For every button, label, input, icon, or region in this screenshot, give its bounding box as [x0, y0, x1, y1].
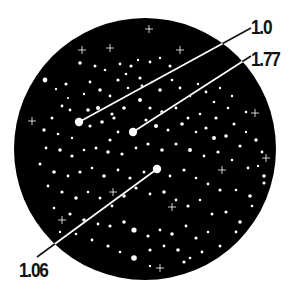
- star: [169, 65, 172, 68]
- star: [195, 131, 198, 134]
- star: [180, 122, 184, 126]
- star: [175, 143, 178, 146]
- star: [238, 144, 241, 147]
- star: [216, 150, 219, 153]
- star: [69, 109, 72, 112]
- star: [149, 193, 152, 196]
- star: [88, 124, 91, 127]
- star: [43, 78, 48, 83]
- star: [188, 148, 192, 152]
- star: [158, 88, 162, 92]
- star: [125, 73, 128, 76]
- star: [231, 159, 234, 162]
- star: [116, 78, 119, 81]
- star: [52, 170, 56, 174]
- star: [64, 82, 67, 85]
- star: [245, 111, 248, 114]
- star: [68, 212, 71, 215]
- star: [45, 147, 48, 150]
- star: [106, 244, 109, 247]
- star: [55, 88, 57, 90]
- star: [235, 231, 238, 234]
- star: [185, 225, 188, 228]
- star: [47, 185, 50, 188]
- star: [262, 174, 266, 178]
- star: [247, 167, 250, 170]
- star: [138, 76, 141, 79]
- star: [195, 177, 198, 180]
- star: [83, 149, 86, 152]
- star: [167, 129, 170, 132]
- star: [120, 152, 123, 155]
- star: [203, 155, 206, 158]
- star-field-diagram: [0, 0, 301, 294]
- star: [134, 186, 137, 189]
- star: [109, 95, 112, 98]
- star: [169, 175, 172, 178]
- star: [53, 207, 56, 210]
- star: [57, 133, 60, 136]
- star: [154, 124, 158, 128]
- star: [61, 105, 64, 108]
- star: [186, 204, 189, 207]
- star: [74, 196, 78, 200]
- star: [131, 227, 136, 232]
- callout-label-2: 1.77: [251, 48, 280, 69]
- star: [189, 257, 192, 260]
- star: [60, 190, 63, 193]
- callout-label-3: 1.06: [19, 259, 48, 280]
- star: [42, 128, 45, 131]
- star: [201, 251, 204, 254]
- star: [98, 88, 102, 92]
- highlighted-star: [153, 165, 161, 173]
- star: [149, 61, 152, 64]
- star: [67, 97, 69, 99]
- star: [179, 87, 182, 90]
- star: [162, 190, 166, 194]
- star: [127, 87, 130, 90]
- star: [194, 236, 197, 239]
- star: [110, 112, 113, 115]
- star: [235, 189, 238, 192]
- star: [175, 199, 178, 202]
- star: [111, 205, 114, 208]
- star: [91, 167, 94, 170]
- highlighted-star: [75, 118, 83, 126]
- star: [138, 98, 142, 102]
- star: [262, 181, 265, 184]
- star: [119, 63, 122, 66]
- star: [122, 220, 126, 224]
- star: [83, 93, 85, 95]
- star: [117, 131, 120, 134]
- star: [257, 165, 259, 167]
- star: [199, 113, 202, 116]
- star: [211, 213, 214, 216]
- star: [100, 120, 104, 124]
- star: [176, 248, 180, 252]
- star: [108, 224, 111, 227]
- star: [261, 151, 264, 154]
- star: [95, 147, 98, 150]
- star: [128, 176, 131, 179]
- star: [96, 106, 100, 110]
- star: [143, 171, 146, 174]
- star: [218, 188, 221, 191]
- star: [67, 175, 70, 178]
- star: [122, 106, 126, 110]
- star: [78, 61, 82, 65]
- star: [58, 148, 62, 152]
- star: [70, 154, 73, 157]
- star: [245, 131, 247, 133]
- star: [159, 229, 162, 232]
- star: [214, 116, 217, 119]
- star: [112, 116, 115, 119]
- star: [108, 138, 111, 141]
- star: [119, 251, 122, 254]
- star: [86, 108, 90, 112]
- star: [182, 260, 185, 263]
- star: [144, 118, 147, 121]
- star: [146, 142, 149, 145]
- star: [187, 117, 190, 120]
- star-field-disc: [14, 18, 276, 280]
- star: [159, 57, 161, 59]
